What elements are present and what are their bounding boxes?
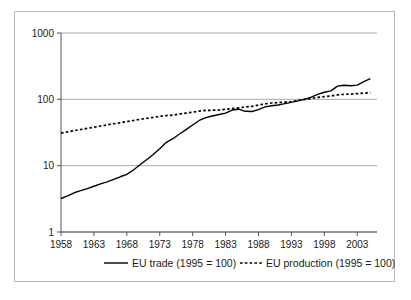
x-tick-label-1998: 1998	[313, 239, 336, 250]
x-tick-label-1973: 1973	[149, 239, 172, 250]
chart-legend: EU trade (1995 = 100)EU production (1995…	[104, 257, 395, 269]
x-tick-label-1963: 1963	[83, 239, 106, 250]
x-tick-label-1983: 1983	[214, 239, 237, 250]
y-tick-label-10: 10	[43, 160, 55, 171]
legend-label-eu-production: EU production (1995 = 100)	[266, 257, 395, 269]
x-tick-label-1988: 1988	[247, 239, 270, 250]
legend-label-eu-trade: EU trade (1995 = 100)	[132, 257, 236, 269]
x-axis-ticks: 1958196319681973197819831988199319982003	[50, 232, 369, 250]
y-tick-label-1: 1	[48, 227, 54, 238]
x-tick-label-1978: 1978	[182, 239, 205, 250]
y-tick-label-1000: 1000	[32, 28, 55, 39]
line-chart: 1000100101 19581963196819731978198319881…	[0, 0, 411, 300]
x-tick-label-2003: 2003	[346, 239, 369, 250]
y-tick-label-100: 100	[37, 94, 54, 105]
x-tick-label-1958: 1958	[50, 239, 73, 250]
x-tick-label-1968: 1968	[116, 239, 139, 250]
plot-area-background	[61, 33, 377, 232]
chart-figure: 1000100101 19581963196819731978198319881…	[0, 0, 411, 300]
x-tick-label-1993: 1993	[280, 239, 303, 250]
y-axis-ticks: 1000100101	[32, 28, 61, 238]
